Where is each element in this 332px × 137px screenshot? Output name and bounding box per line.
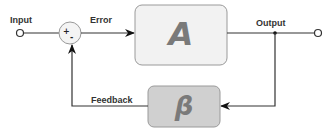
feedback-path-right [221,33,275,106]
feedback-label: Feedback [91,95,133,105]
plus-sign: + [63,27,70,36]
minus-sign: - [70,33,73,42]
block-a-label: A [135,14,227,54]
error-label: Error [90,15,112,25]
input-terminal [17,30,24,37]
output-label: Output [256,18,286,28]
block-b-label: β [148,89,220,123]
input-label: Input [10,15,32,25]
output-terminal [315,30,322,37]
